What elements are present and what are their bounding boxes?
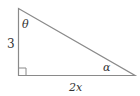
vertical-side-label: 3 (7, 37, 15, 51)
triangle-diagram: 3 θ α 2x (0, 0, 140, 96)
right-angle-marker (19, 68, 27, 76)
triangle-shape (19, 9, 136, 76)
horizontal-side-label: 2x (68, 81, 83, 94)
theta-angle-label: θ (22, 18, 29, 31)
alpha-angle-label: α (103, 61, 111, 74)
